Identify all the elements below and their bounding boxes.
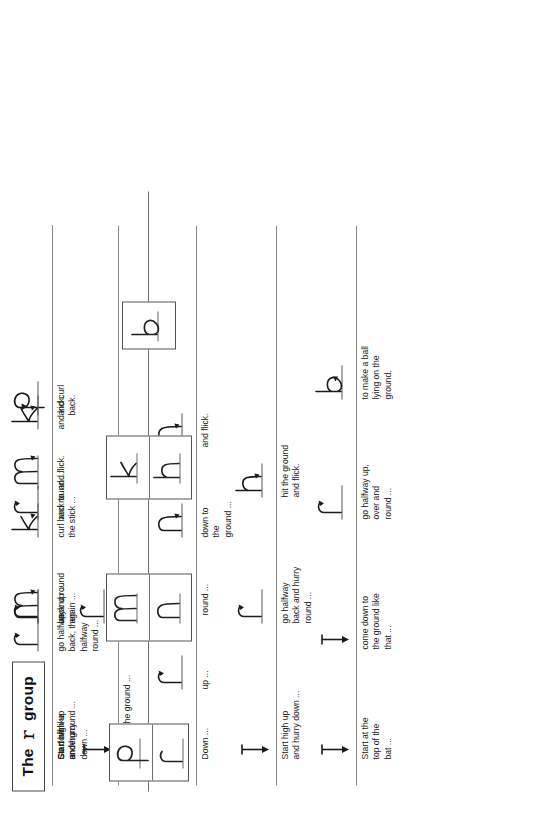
row-k-step-4-caption: and kick.: [56, 395, 67, 429]
page-title-prefix: The: [19, 748, 37, 776]
row-k-step-2-stroke: [8, 611, 48, 651]
row-k-step-3-stroke: [8, 497, 48, 537]
row-k-step-1-caption: Start high up and hurry down ...: [56, 710, 90, 759]
row-h-step-3: hit the ground and flick.: [242, 377, 276, 497]
stroke-arrow-down-icon: [238, 719, 272, 759]
row-b-step-1-caption: Start at the top of the bat ...: [360, 717, 394, 759]
row-n-step-4-caption: down to the ground ...: [200, 501, 234, 537]
group-letter-m: [107, 574, 150, 640]
row-h-step-2-stroke: [232, 583, 272, 623]
row-b-step-3-caption: go halfway up, over and round ...: [360, 464, 394, 519]
page-title: The r group: [12, 661, 45, 791]
row-b-step-1-stroke: [318, 719, 352, 759]
row-h-step-2: go halfway back and hurry round ...: [242, 503, 276, 623]
stroke-b-icon: [312, 359, 352, 399]
row-h-step-1-stroke: [238, 719, 272, 759]
group-letter-p: [110, 724, 153, 780]
n-m-group: [106, 573, 192, 641]
row-n-step-2-caption: up ...: [200, 670, 211, 689]
group-letter-n: [150, 574, 192, 640]
stroke-h-icon: [232, 457, 272, 497]
poster-canvas: The r group Down to the ground ...back u…: [0, 0, 538, 819]
stroke-k-icon: [8, 497, 48, 537]
row-h-step-3-stroke: [232, 457, 272, 497]
row-r-baseline: [118, 225, 119, 785]
row-h-step-1: Start high up and hurry down ...: [242, 639, 276, 759]
row-b-step-3: go halfway up, over and round ...: [322, 399, 356, 519]
row-h-baseline: [276, 225, 277, 785]
row-k-step-4: and kick.: [18, 309, 52, 429]
row-k-baseline: [52, 225, 53, 785]
row-k-step-2: go halfway back, then halfway round ...: [18, 531, 52, 651]
stroke-r-icon: [232, 583, 272, 623]
handwriting-strokes-poster: The r group Down to the ground ...back u…: [0, 0, 538, 819]
group-letter-k: [107, 436, 150, 498]
row-b-baseline: [356, 225, 357, 785]
row-b-step-4: to make a ball lying on the ground.: [322, 279, 356, 399]
stroke-r-icon: [152, 649, 192, 689]
row-n-step-2-stroke: [152, 649, 192, 689]
r-p-group: [109, 723, 189, 781]
row-b-step-2: come down to the ground like that ...: [322, 529, 356, 649]
stroke-arrow-down-icon: [318, 719, 352, 759]
row-b-step-1: Start at the top of the bat ...: [322, 639, 356, 759]
row-n-step-5-caption: and flick.: [200, 413, 211, 447]
row-k-step-3: curl back to the stick ...: [18, 417, 52, 537]
row-h-step-3-caption: hit the ground and flick.: [280, 444, 303, 497]
row-b-step-3-stroke: [312, 479, 352, 519]
row-n-baseline: [196, 225, 197, 785]
row-b-step-2-caption: come down to the ground like that ...: [360, 593, 394, 649]
stroke-arrow-down-icon: [318, 609, 352, 649]
row-h-step-2-caption: go halfway back and hurry round ...: [280, 566, 314, 623]
row-k-step-4-stroke: [8, 389, 48, 429]
row-n-step-4-stroke: [152, 497, 192, 537]
row-k-step-2-caption: go halfway back, then halfway round ...: [56, 610, 102, 651]
stroke-k-icon: [8, 389, 48, 429]
row-b-step-2-stroke: [318, 609, 352, 649]
page-title-suffix: group: [19, 676, 37, 721]
stroke-r-icon: [8, 611, 48, 651]
group-letter-h: [150, 436, 192, 498]
row-n-step-1-caption: Down ...: [200, 727, 211, 759]
row-b-step-4-caption: to make a ball lying on the ground.: [360, 345, 394, 399]
stroke-r-icon: [312, 479, 352, 519]
row-m-step-3-caption: and flick.: [56, 455, 67, 489]
h-k-group: [106, 435, 192, 499]
group-letter-r: [153, 724, 195, 780]
row-h-step-1-caption: Start high up and hurry down ...: [280, 690, 303, 759]
group-letter-b: [123, 302, 175, 348]
row-b-step-4-stroke: [312, 359, 352, 399]
row-k-step-3-caption: curl back to the stick ...: [56, 493, 79, 537]
b-group: [122, 301, 176, 349]
row-n-step-3-caption: round ...: [200, 583, 211, 615]
stroke-n-icon: [152, 497, 192, 537]
page-title-cursive-letter: r: [20, 729, 35, 739]
